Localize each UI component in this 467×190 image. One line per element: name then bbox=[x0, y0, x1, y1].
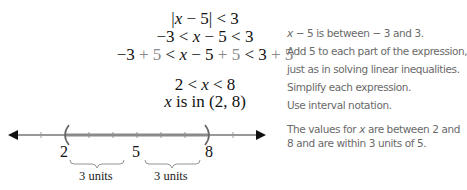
brace-left bbox=[70, 160, 124, 168]
brace-label-right: 3 units bbox=[154, 169, 188, 184]
summary-explanation: The values for x are between 2 and 8 and… bbox=[287, 122, 462, 150]
explanation-4: Simplify each expression. bbox=[287, 78, 411, 97]
tick-label-2: 2 bbox=[60, 143, 68, 161]
left-arrow-icon bbox=[8, 130, 18, 140]
explanation-5: Use interval notation. bbox=[287, 96, 392, 115]
summary-text: The values for bbox=[287, 123, 359, 135]
tick-label-8: 8 bbox=[205, 143, 213, 161]
tick-label-5: 5 bbox=[132, 143, 140, 161]
brace-right bbox=[145, 160, 200, 168]
explanation-text: − 5 is between − 3 and 3. bbox=[293, 27, 424, 39]
explanation-2: Add 5 to each part of the expression, bbox=[287, 42, 467, 61]
explanation-3: just as in solving linear inequalities. bbox=[287, 60, 460, 79]
number-line bbox=[0, 0, 280, 190]
brace-label-left: 3 units bbox=[79, 169, 113, 184]
right-arrow-icon bbox=[256, 130, 266, 140]
explanation-1: x − 5 is between − 3 and 3. bbox=[287, 24, 424, 43]
